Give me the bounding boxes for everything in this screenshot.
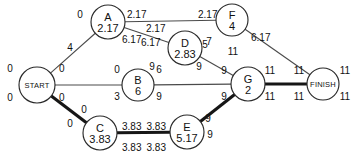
annotation-d-ls: 6.17 xyxy=(141,37,161,48)
annotation-f-lf: 11 xyxy=(228,46,239,57)
node-duration-c: 3.83 xyxy=(89,133,110,145)
node-a[interactable]: A2.17 xyxy=(91,5,125,39)
edge-b-to-g xyxy=(154,84,231,85)
annotation-start-a-edge: 4 xyxy=(67,42,73,53)
annotation-g-lf: 11 xyxy=(265,91,276,102)
annotation-g-ls: 9 xyxy=(221,91,227,102)
annotation-start-es: 0 xyxy=(7,63,13,74)
edge-c-to-e xyxy=(117,132,170,133)
node-start[interactable]: START xyxy=(19,67,55,103)
annotation-a-ef: 2.17 xyxy=(127,9,147,20)
node-f[interactable]: F4 xyxy=(216,4,248,36)
annotation-start-ef: 0 xyxy=(59,63,65,74)
annotation-e-lf: 9 xyxy=(207,129,213,140)
annotation-finish-ef: 11 xyxy=(340,65,351,76)
annotation-finish-lf: 11 xyxy=(340,91,351,102)
annotation-e-ls: 3.83 xyxy=(147,142,167,153)
node-duration-a: 2.17 xyxy=(97,22,118,34)
edge-a-to-f xyxy=(125,20,216,21)
annotation-c-es: 0 xyxy=(81,104,87,115)
annotation-g-ef: 11 xyxy=(265,65,276,76)
edge-d-to-g xyxy=(200,56,233,75)
annotation-b-es: 0 xyxy=(114,64,120,75)
annotation-c-ls: 0 xyxy=(67,118,73,129)
node-duration-g: 2 xyxy=(245,84,251,96)
edge-start-to-a xyxy=(50,33,95,73)
node-duration-f: 4 xyxy=(229,20,235,32)
annotation-c-lf: 3.83 xyxy=(122,142,142,153)
annotation-f-ef: 6.17 xyxy=(251,32,271,43)
network-diagram-canvas: STARTA2.17F4D2.83B6G2C3.83E5.17FINISH 00… xyxy=(0,0,355,168)
node-label-start: START xyxy=(25,81,50,90)
node-b[interactable]: B6 xyxy=(122,69,154,101)
annotation-b-lf: 9 xyxy=(156,91,162,102)
annotation-a-lf: 6.17 xyxy=(122,34,142,45)
annotation-finish-ls: 11 xyxy=(294,91,305,102)
annotation-g-es: 9 xyxy=(221,65,227,76)
annotation-e-ef: 9 xyxy=(205,113,211,124)
annotation-finish-es: 11 xyxy=(294,65,305,76)
annotation-b-ls: 3 xyxy=(114,91,120,102)
annotation-e-es: 3.83 xyxy=(147,121,167,132)
node-finish[interactable]: FINISH xyxy=(307,68,339,100)
annotation-d-es: 2.17 xyxy=(146,23,166,34)
node-e[interactable]: E5.17 xyxy=(170,115,204,149)
annotation-start-ls: 0 xyxy=(7,92,13,103)
node-d[interactable]: D2.83 xyxy=(168,31,202,65)
node-duration-e: 5.17 xyxy=(176,132,197,144)
annotation-d-ef: 5 xyxy=(202,39,208,50)
annotation-f-es: 2.17 xyxy=(198,9,218,20)
annotation-a-es: 0 xyxy=(77,9,83,20)
annotation-eg-9: 9 xyxy=(149,61,155,72)
network-diagram-svg: STARTA2.17F4D2.83B6G2C3.83E5.17FINISH 00… xyxy=(0,0,355,168)
node-duration-d: 2.83 xyxy=(174,48,195,60)
annotation-c-ef: 3.83 xyxy=(122,121,142,132)
node-g[interactable]: G2 xyxy=(231,67,265,101)
annotation-b-ef: 6 xyxy=(156,64,162,75)
annotation-start-lf: 0 xyxy=(59,92,65,103)
annotation-d-lf: 9 xyxy=(196,61,202,72)
node-c[interactable]: C3.83 xyxy=(83,116,117,150)
node-duration-b: 6 xyxy=(135,85,141,97)
node-label-finish: FINISH xyxy=(310,80,336,89)
